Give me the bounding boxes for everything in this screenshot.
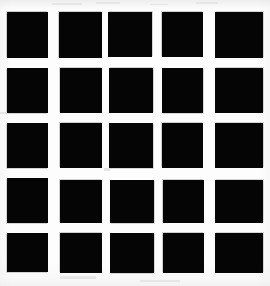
grid-square (7, 123, 48, 168)
scan-artifact (52, 3, 82, 5)
grid-square (109, 123, 153, 168)
grid-square (163, 233, 204, 273)
scan-artifact (150, 4, 168, 5)
grid-square (162, 12, 203, 57)
scan-artifact (0, 112, 6, 114)
grid-square (215, 180, 263, 223)
grid-square (60, 123, 102, 168)
grid-figure-canvas (0, 0, 270, 286)
grid-square (108, 12, 152, 57)
grid-square (215, 12, 263, 58)
grid-square (60, 180, 102, 223)
grid-square (60, 233, 102, 273)
grid-square (163, 180, 204, 223)
grid-square (7, 68, 48, 113)
scan-artifact (104, 168, 110, 171)
grid-square (109, 68, 153, 113)
scan-artifact (96, 2, 120, 4)
grid-square (7, 178, 48, 223)
scan-artifact (140, 280, 180, 282)
grid-square (215, 233, 263, 273)
grid-square (162, 68, 203, 113)
grid-square (60, 68, 102, 113)
grid-square (59, 12, 102, 58)
scan-artifact (196, 2, 218, 4)
grid-square (215, 68, 263, 113)
scan-artifact (60, 276, 96, 279)
grid-square (110, 233, 154, 273)
grid-square (215, 123, 263, 168)
grid-square (7, 233, 48, 272)
grid-square (110, 180, 154, 223)
grid-square (162, 123, 203, 168)
grid-square (7, 12, 48, 58)
